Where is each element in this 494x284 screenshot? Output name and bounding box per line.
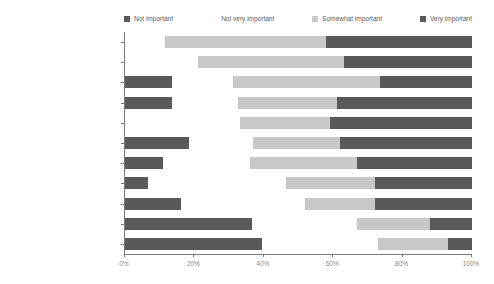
bar-segment[interactable] <box>305 198 374 210</box>
legend-swatch-icon <box>312 16 318 22</box>
bar-row <box>125 97 472 109</box>
bar-segment[interactable] <box>262 238 378 250</box>
y-axis-tick <box>121 143 124 144</box>
bar-segment[interactable] <box>233 76 380 88</box>
x-axis-tick-label: 20% <box>187 260 200 267</box>
bar-segment[interactable] <box>252 218 358 230</box>
bar-segment[interactable] <box>125 97 172 109</box>
bar-segment[interactable] <box>337 97 472 109</box>
bar-segment[interactable] <box>250 157 358 169</box>
bar-segment[interactable] <box>448 238 472 250</box>
bar-row <box>125 137 472 149</box>
legend-item[interactable]: Not important <box>124 16 173 23</box>
bar-row <box>125 218 472 230</box>
bar-segment[interactable] <box>240 117 330 129</box>
x-axis-tick-label: 0% <box>119 260 128 267</box>
bar-row <box>125 117 472 129</box>
x-axis-tick <box>263 254 264 257</box>
bar-segment[interactable] <box>125 117 240 129</box>
x-axis-tick <box>471 254 472 257</box>
bar-segment[interactable] <box>380 76 472 88</box>
legend-swatch-icon <box>124 16 130 22</box>
chart-legend: Not importantNot very importantSomewhat … <box>124 12 472 26</box>
bar-segment[interactable] <box>189 137 253 149</box>
bar-segment[interactable] <box>125 137 189 149</box>
y-axis-tick <box>121 204 124 205</box>
x-axis-tick <box>332 254 333 257</box>
bar-segment[interactable] <box>125 56 198 68</box>
legend-swatch-icon <box>211 16 217 22</box>
bar-row <box>125 177 472 189</box>
legend-item[interactable]: Somewhat important <box>312 16 382 23</box>
legend-item[interactable]: Not very important <box>211 16 274 23</box>
y-axis-tick <box>121 62 124 63</box>
bar-segment[interactable] <box>125 177 148 189</box>
legend-item[interactable]: Very important <box>420 16 472 23</box>
x-axis-line <box>124 254 472 255</box>
bar-segment[interactable] <box>148 177 287 189</box>
bar-segment[interactable] <box>430 218 472 230</box>
y-axis-tick <box>121 42 124 43</box>
bar-segment[interactable] <box>172 97 238 109</box>
bar-segment[interactable] <box>330 117 472 129</box>
y-axis-tick <box>121 82 124 83</box>
bar-segment[interactable] <box>357 218 430 230</box>
legend-label: Somewhat important <box>322 16 382 23</box>
bar-segment[interactable] <box>125 198 181 210</box>
bar-segment[interactable] <box>172 76 233 88</box>
bar-row <box>125 36 472 48</box>
y-axis-tick <box>121 183 124 184</box>
bar-segment[interactable] <box>125 36 165 48</box>
bar-segment[interactable] <box>357 157 472 169</box>
bar-row <box>125 56 472 68</box>
bar-row <box>125 238 472 250</box>
bar-segment[interactable] <box>165 36 326 48</box>
bar-segment[interactable] <box>198 56 344 68</box>
y-axis-tick <box>121 163 124 164</box>
stacked-bar-chart: Not importantNot very importantSomewhat … <box>0 0 494 284</box>
x-axis-tick <box>402 254 403 257</box>
bar-row <box>125 76 472 88</box>
legend-label: Very important <box>430 16 472 23</box>
bar-segment[interactable] <box>344 56 472 68</box>
bar-segment[interactable] <box>125 76 172 88</box>
bar-segment[interactable] <box>286 177 374 189</box>
bar-segment[interactable] <box>378 238 447 250</box>
x-axis-tick-label: 40% <box>256 260 269 267</box>
bar-segment[interactable] <box>163 157 250 169</box>
x-axis-tick-label: 80% <box>395 260 408 267</box>
x-axis-tick <box>124 254 125 257</box>
y-axis-tick <box>121 224 124 225</box>
x-axis-tick-label: 60% <box>326 260 339 267</box>
bar-segment[interactable] <box>125 238 262 250</box>
bar-segment[interactable] <box>253 137 340 149</box>
x-axis-tick-label: 100% <box>463 260 480 267</box>
y-axis-tick <box>121 123 124 124</box>
bar-segment[interactable] <box>238 97 337 109</box>
bar-row <box>125 157 472 169</box>
bar-segment[interactable] <box>125 218 252 230</box>
bar-segment[interactable] <box>340 137 472 149</box>
plot-area: 0%20%40%60%80%100%Mobile phone-based acc… <box>124 32 471 254</box>
legend-label: Not very important <box>221 16 274 23</box>
y-axis-tick <box>121 103 124 104</box>
bar-row <box>125 198 472 210</box>
y-axis-tick <box>121 244 124 245</box>
bar-segment[interactable] <box>125 157 163 169</box>
bar-segment[interactable] <box>326 36 472 48</box>
x-axis-tick <box>193 254 194 257</box>
bar-segment[interactable] <box>375 198 472 210</box>
bar-segment[interactable] <box>181 198 306 210</box>
bar-segment[interactable] <box>375 177 472 189</box>
legend-swatch-icon <box>420 16 426 22</box>
legend-label: Not important <box>134 16 173 23</box>
